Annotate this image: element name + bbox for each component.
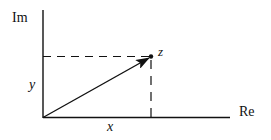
real-component-label: x [106, 119, 114, 134]
point-z-dot [149, 54, 153, 58]
real-axis-label: Re [239, 104, 255, 119]
complex-plane-diagram: Im Re z y x [0, 0, 271, 140]
imaginary-axis-label: Im [12, 10, 28, 25]
vector-arrow [43, 58, 149, 118]
imag-component-label: y [27, 77, 36, 92]
point-z-label: z [157, 44, 163, 59]
